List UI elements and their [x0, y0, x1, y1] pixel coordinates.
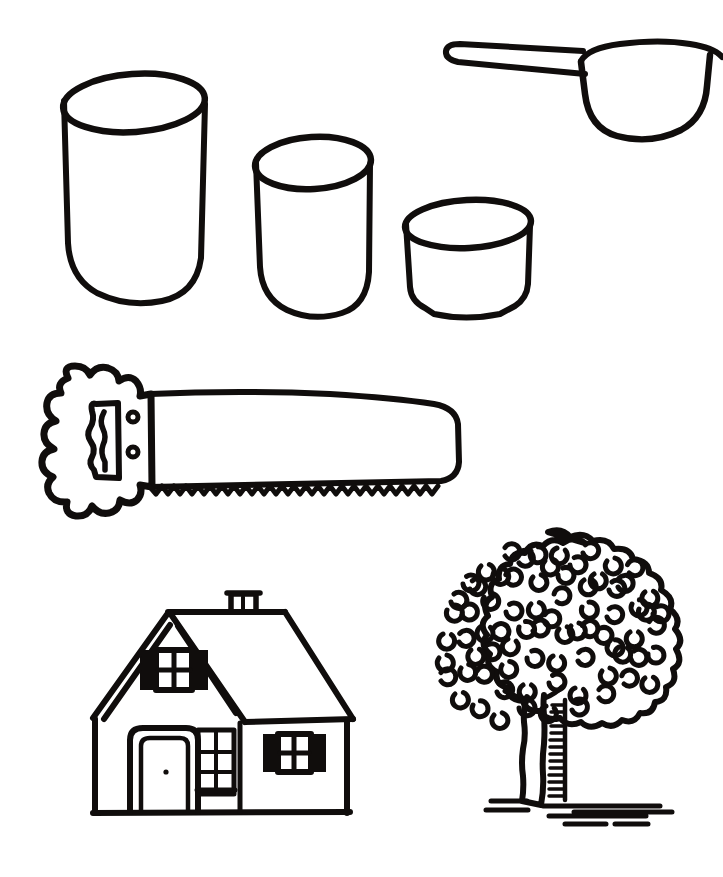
house-door-knob	[163, 769, 168, 774]
drawing-page: Large measuring cup Medium measuring cup…	[0, 0, 723, 877]
house-side-window	[263, 734, 326, 772]
house-roof-eave-right	[245, 719, 353, 722]
house-dormer-window	[140, 650, 208, 690]
line-art-canvas	[0, 0, 723, 877]
